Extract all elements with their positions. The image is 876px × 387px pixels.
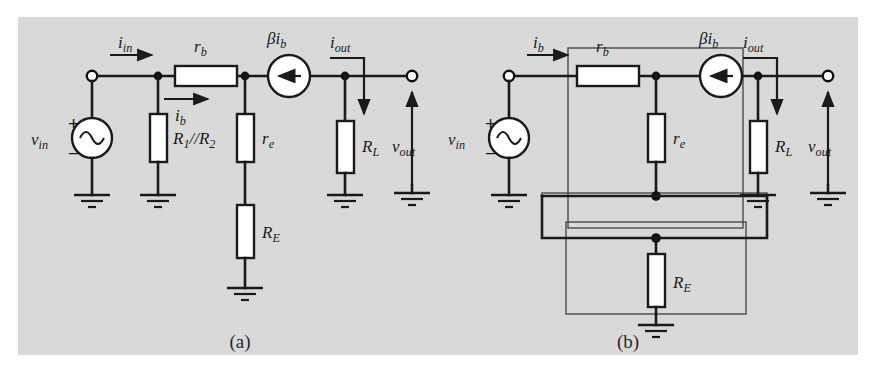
source-minus-sign-b: − xyxy=(485,143,496,164)
resistor-rb-a xyxy=(175,66,237,86)
label-re-a: re xyxy=(262,129,275,151)
ground-symbols-b xyxy=(491,193,846,337)
current-source-beta-ib-b xyxy=(700,55,742,97)
label-RL-a: RL xyxy=(361,137,379,159)
resistor-re-b xyxy=(648,114,665,162)
resistor-RE-b xyxy=(648,254,665,307)
resistor-rb-b xyxy=(577,66,639,86)
output-terminal-a xyxy=(407,71,417,81)
source-plus-sign-b: + xyxy=(485,113,496,134)
label-v-in-b: vin xyxy=(448,130,465,152)
output-terminal-b xyxy=(823,71,833,81)
label-i-out-b: iout xyxy=(743,33,764,55)
ground-r1r2-a xyxy=(140,195,176,207)
label-beta-ib-a: βib xyxy=(266,29,286,51)
ground-vin-b xyxy=(491,195,527,207)
re-big-branch-b xyxy=(648,238,665,325)
label-rb-b: rb xyxy=(596,37,609,59)
re-branch-b xyxy=(648,72,665,201)
label-i-in-a: iin xyxy=(118,33,132,55)
source-minus-sign-a: − xyxy=(68,143,79,164)
resistor-RL-b xyxy=(750,121,767,173)
label-i-out-a: iout xyxy=(330,33,351,55)
label-i-b-a: ib xyxy=(175,106,186,128)
resistor-re-a xyxy=(237,114,254,162)
source-plus-sign-a: + xyxy=(68,113,79,134)
label-rb-a: rb xyxy=(194,37,207,59)
current-arrow-i-out-b xyxy=(743,58,777,114)
panel-caption-b: (b) xyxy=(617,331,639,353)
circuit-diagram-svg: iin rb ib βib iout vin + − R1//R2 xyxy=(0,0,876,387)
label-re-b: re xyxy=(673,129,686,151)
rl-branch-b xyxy=(750,72,767,195)
figure-page: iin rb ib βib iout vin + − R1//R2 xyxy=(0,0,876,387)
resistor-r1-parallel-r2 xyxy=(150,114,167,162)
r1r2-branch-a xyxy=(150,72,167,195)
label-v-in-a: vin xyxy=(31,130,48,152)
ground-RE-a xyxy=(227,288,263,300)
label-beta-ib-b: βib xyxy=(698,29,718,51)
ground-vout-a xyxy=(394,193,430,205)
resistor-RE-a xyxy=(237,205,254,258)
panel-caption-a: (a) xyxy=(229,331,250,353)
vin-branch-a xyxy=(72,81,112,195)
input-terminal-b xyxy=(504,71,514,81)
emitter-return-loop-b xyxy=(542,196,767,243)
rl-branch-a xyxy=(337,72,354,195)
ground-vin-a xyxy=(74,195,110,207)
label-RE-b: RE xyxy=(672,273,691,295)
ground-RE-b xyxy=(638,325,674,337)
re-branch-a xyxy=(237,72,254,288)
panel-a: iin rb ib βib iout vin + − R1//R2 xyxy=(31,29,430,353)
current-source-beta-ib-a xyxy=(268,55,310,97)
resistor-RL-a xyxy=(337,121,354,173)
label-RE-a: RE xyxy=(261,223,280,245)
label-RL-b: RL xyxy=(774,137,792,159)
ground-RL-a xyxy=(327,195,363,207)
vin-branch-b xyxy=(489,81,529,195)
label-i-b-b: ib xyxy=(533,33,544,55)
input-terminal-a xyxy=(87,71,97,81)
panel-b: ib rb βib iout vin + − re RE xyxy=(448,29,846,353)
current-arrow-i-out-a xyxy=(330,58,364,114)
ground-vout-b xyxy=(810,193,846,205)
label-r1r2-a: R1//R2 xyxy=(172,129,215,151)
